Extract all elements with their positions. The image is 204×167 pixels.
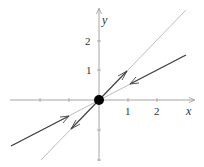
y-axis-label: y [101, 13, 108, 27]
saddle-point [94, 95, 104, 105]
x-tick-label-1: 1 [125, 105, 131, 117]
y-tick-label-1: 1 [86, 64, 92, 76]
y-tick-label-2: 2 [85, 35, 91, 47]
x-axis-label: x [185, 104, 192, 118]
phase-portrait-diagram: 1 2 2 1 x y [0, 0, 204, 167]
x-tick-label-2: 2 [154, 105, 160, 117]
